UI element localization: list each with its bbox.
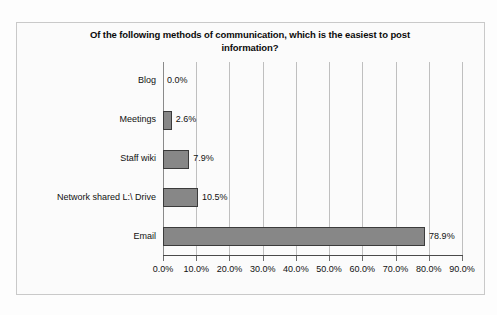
x-tickmark [196,256,197,261]
x-tickmark [362,256,363,261]
x-tickmark [396,256,397,261]
category-label-email: Email [16,231,156,241]
bar-value-label: 10.5% [202,192,228,202]
bar-staff-wiki[interactable] [163,150,189,169]
gridline-90.0 [462,62,463,256]
chart-title-line-1: Of the following methods of communicatio… [34,28,466,41]
x-tickmark [429,256,430,261]
bar-value-label: 2.6% [176,114,197,124]
bar-meetings[interactable] [163,111,172,130]
x-axis-line [163,255,463,256]
x-axis-tick-label: 90.0% [442,264,482,274]
gridline-80.0 [429,62,430,256]
x-tickmark [263,256,264,261]
chart-title: Of the following methods of communicatio… [34,28,466,54]
x-tickmark [163,256,164,261]
chart-screenshot: Of the following methods of communicatio… [0,0,497,315]
x-tickmark [329,256,330,261]
bar-email[interactable] [163,227,425,246]
category-label-network-shared-l-drive: Network shared L:\ Drive [16,192,156,202]
bar-value-label: 0.0% [167,75,188,85]
bar-network-shared-l-drive[interactable] [163,188,198,207]
bar-value-label: 78.9% [429,231,455,241]
category-label-staff-wiki: Staff wiki [16,153,156,163]
bar-value-label: 7.9% [193,153,214,163]
x-tickmark [229,256,230,261]
category-label-blog: Blog [16,75,156,85]
category-label-meetings: Meetings [16,114,156,124]
x-tickmark [296,256,297,261]
chart-title-line-2: information? [34,41,466,54]
x-tickmark [462,256,463,261]
